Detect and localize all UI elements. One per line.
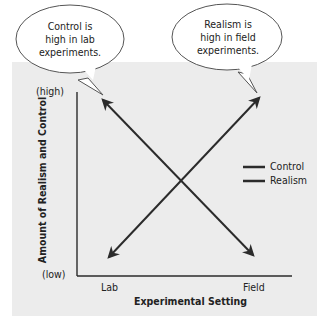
callout-left-text: Control is high in lab experiments.: [26, 20, 114, 59]
legend-realism-label: Realism: [270, 174, 307, 186]
callout-right-text: Realism is high in field experiments.: [182, 18, 274, 57]
callout-right-line1: Realism is: [182, 18, 274, 31]
y-axis-low-label: (low): [42, 268, 66, 280]
control-line: [103, 100, 253, 255]
x-axis-field-label: Field: [243, 281, 265, 293]
callout-left-line1: Control is: [26, 20, 114, 33]
realism-line: [109, 98, 259, 257]
callout-left-line3: experiments.: [26, 46, 114, 59]
callout-left-line2: high in lab: [26, 33, 114, 46]
x-axis-title: Experimental Setting: [134, 295, 247, 307]
callout-right-line2: high in field: [182, 31, 274, 44]
x-axis-lab-label: Lab: [101, 281, 118, 293]
y-axis-title: Amount of Realism and Control: [36, 95, 48, 265]
legend-control-label: Control: [270, 160, 304, 172]
callout-right-line3: experiments.: [182, 44, 274, 57]
